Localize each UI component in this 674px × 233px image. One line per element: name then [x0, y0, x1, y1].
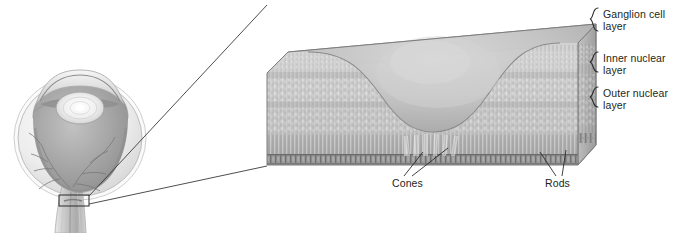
lens	[56, 92, 104, 124]
eye-cross-section	[14, 70, 146, 233]
label-ganglion-line2: layer	[603, 20, 626, 32]
label-ganglion-cell-layer: Ganglion celllayer	[603, 9, 665, 32]
label-inner-line2: layer	[603, 64, 626, 76]
label-cones: Cones	[392, 178, 423, 190]
figure-root: Ganglion celllayer Inner nuclearlayer Ou…	[0, 0, 674, 233]
label-ganglion-line1: Ganglion cell	[603, 8, 665, 20]
label-outer-line2: layer	[603, 99, 626, 111]
label-inner-nuclear-layer: Inner nuclearlayer	[603, 53, 666, 76]
label-outer-line1: Outer nuclear	[603, 87, 668, 99]
retina-3d-block	[265, 24, 598, 167]
anatomical-illustration	[0, 0, 674, 233]
label-inner-line1: Inner nuclear	[603, 52, 666, 64]
label-outer-nuclear-layer: Outer nuclearlayer	[603, 88, 668, 111]
label-rods: Rods	[545, 178, 570, 190]
